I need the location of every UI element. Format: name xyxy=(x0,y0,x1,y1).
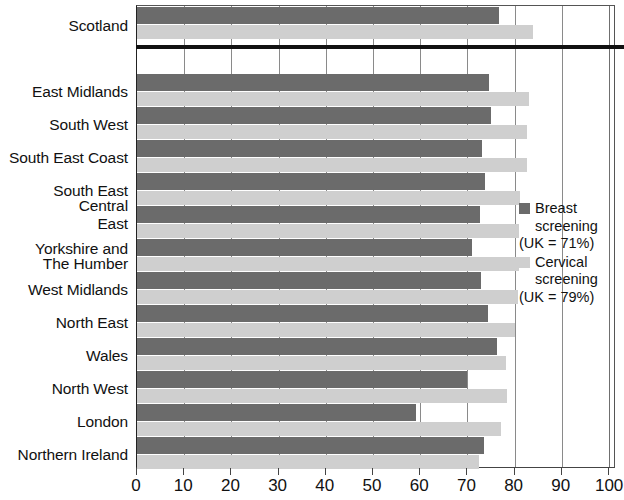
legend-entry-breast-screening: Breast screening (UK = 71%) xyxy=(519,200,624,253)
bar-cervical-wales xyxy=(137,356,506,370)
xtick-30 xyxy=(278,468,279,475)
bar-breast-north-west xyxy=(137,371,467,388)
category-label-south-west: South West xyxy=(49,117,128,132)
category-label-wales: Wales xyxy=(86,348,128,363)
xtick-label-60: 60 xyxy=(410,476,429,496)
bar-breast-north-east xyxy=(137,305,488,322)
bar-cervical-london xyxy=(137,422,501,436)
xtick-label-100: 100 xyxy=(595,476,623,496)
chart-legend: Breast screening (UK = 71%) Cervical scr… xyxy=(519,200,624,307)
xtick-10 xyxy=(183,468,184,475)
bar-breast-yorkshire-and-the-humber xyxy=(137,239,472,256)
category-label-northern-ireland: Northern Ireland xyxy=(18,447,128,462)
xtick-label-10: 10 xyxy=(174,476,193,496)
category-label-london: London xyxy=(77,414,128,429)
bar-cervical-south-east-coast xyxy=(137,158,527,172)
bar-breast-east xyxy=(137,206,480,223)
category-label-north-east: North East xyxy=(56,315,128,330)
bar-breast-south-west xyxy=(137,107,491,124)
xtick-label-50: 50 xyxy=(363,476,382,496)
legend-entry-cervical-screening: Cervical screening (UK = 79%) xyxy=(519,254,624,307)
xtick-90 xyxy=(561,468,562,475)
bar-breast-london xyxy=(137,404,416,421)
bar-cervical-northern-ireland xyxy=(137,455,479,469)
category-label-east: East xyxy=(97,216,128,231)
breast-swatch-icon xyxy=(519,203,530,214)
horizontal-bar-chart: Scotland East Midlands South West South … xyxy=(0,0,624,500)
bar-breast-scotland xyxy=(137,7,499,24)
bar-breast-northern-ireland xyxy=(137,437,484,454)
xtick-label-30: 30 xyxy=(268,476,287,496)
xtick-20 xyxy=(230,468,231,475)
xtick-80 xyxy=(514,468,515,475)
category-label-scotland: Scotland xyxy=(68,18,128,33)
legend-label-breast-line1: Breast xyxy=(519,200,624,218)
xtick-100 xyxy=(608,468,609,475)
legend-label-cervical-note: (UK = 79%) xyxy=(519,289,624,307)
scotland-uk-separator xyxy=(136,45,624,49)
legend-label-breast-note: (UK = 71%) xyxy=(519,235,624,253)
xtick-label-70: 70 xyxy=(457,476,476,496)
xtick-50 xyxy=(372,468,373,475)
xtick-label-90: 90 xyxy=(551,476,570,496)
bar-breast-wales xyxy=(137,338,497,355)
xtick-label-0: 0 xyxy=(131,476,140,496)
xtick-label-80: 80 xyxy=(504,476,523,496)
bar-breast-south-east-coast xyxy=(137,140,482,157)
category-label-south-east-central: South East Central xyxy=(0,183,128,213)
bar-cervical-south-east-central xyxy=(137,191,520,205)
xtick-40 xyxy=(325,468,326,475)
bar-breast-south-east-central xyxy=(137,173,485,190)
bar-cervical-scotland xyxy=(137,25,533,39)
bar-breast-west-midlands xyxy=(137,272,481,289)
category-label-west-midlands: West Midlands xyxy=(28,282,128,297)
bar-cervical-south-west xyxy=(137,125,527,139)
category-label-yorkshire-and-the-humber: Yorkshire and The Humber xyxy=(35,241,128,271)
xtick-label-20: 20 xyxy=(221,476,240,496)
cervical-swatch-icon xyxy=(519,257,530,268)
bar-cervical-north-east xyxy=(137,323,515,337)
legend-label-breast-line2: screening xyxy=(519,218,624,236)
bar-cervical-north-west xyxy=(137,389,507,403)
bar-cervical-east-midlands xyxy=(137,92,529,106)
bar-breast-east-midlands xyxy=(137,74,489,91)
legend-label-cervical-line2: screening xyxy=(519,271,624,289)
xtick-70 xyxy=(466,468,467,475)
category-label-east-midlands: East Midlands xyxy=(32,84,128,99)
bar-cervical-west-midlands xyxy=(137,290,518,304)
xtick-60 xyxy=(419,468,420,475)
xtick-label-40: 40 xyxy=(315,476,334,496)
category-label-north-west: North West xyxy=(52,381,128,396)
bar-cervical-east xyxy=(137,224,519,238)
bar-cervical-yorkshire-and-the-humber xyxy=(137,257,519,271)
legend-label-cervical-line1: Cervical xyxy=(519,254,624,272)
xtick-0 xyxy=(136,468,137,475)
category-label-south-east-coast: South East Coast xyxy=(9,150,128,165)
